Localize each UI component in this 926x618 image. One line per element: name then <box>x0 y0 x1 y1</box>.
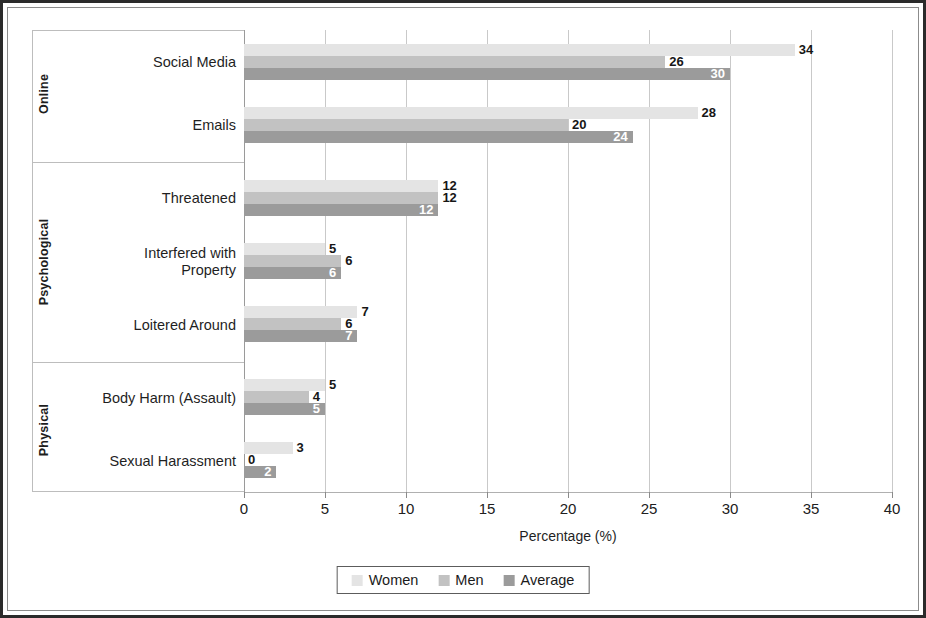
category-axis-pane: OnlineSocial MediaEmailsPsychologicalThr… <box>32 30 244 492</box>
x-tick-40 <box>892 492 893 498</box>
legend-swatch-men-icon <box>438 575 449 586</box>
data-label-average: 7 <box>345 330 352 342</box>
bar-men[interactable] <box>244 318 341 330</box>
x-tick-label-0: 0 <box>240 500 248 517</box>
data-label-women: 5 <box>329 379 336 391</box>
bar-men[interactable] <box>244 391 309 403</box>
data-label-women: 3 <box>297 442 304 454</box>
data-label-women: 28 <box>702 107 716 119</box>
chart-legend[interactable]: Women Men Average <box>337 566 590 594</box>
bar-men[interactable] <box>244 56 665 68</box>
chart-figure: OnlineSocial MediaEmailsPsychologicalThr… <box>0 0 926 618</box>
legend-label-women: Women <box>369 572 419 588</box>
group-separator <box>33 362 244 363</box>
bar-men[interactable] <box>244 192 438 204</box>
data-label-men: 6 <box>345 255 352 267</box>
legend-item-women[interactable]: Women <box>352 572 419 588</box>
bar-women[interactable] <box>244 107 698 119</box>
x-tick-label-10: 10 <box>398 500 415 517</box>
x-tick-5 <box>325 492 326 498</box>
x-tick-label-5: 5 <box>321 500 329 517</box>
x-tick-label-20: 20 <box>560 500 577 517</box>
category-label: Threatened <box>162 190 236 207</box>
data-label-average: 2 <box>264 466 271 478</box>
x-tick-label-30: 30 <box>722 500 739 517</box>
data-label-average: 6 <box>329 267 336 279</box>
legend-swatch-women-icon <box>352 575 363 586</box>
data-label-men: 0 <box>248 454 255 466</box>
legend-swatch-average-icon <box>504 575 515 586</box>
category-label: Emails <box>192 117 236 134</box>
x-tick-15 <box>487 492 488 498</box>
bar-average[interactable] <box>244 131 633 143</box>
bar-women[interactable] <box>244 243 325 255</box>
x-tick-label-40: 40 <box>884 500 901 517</box>
category-label: Interfered with Property <box>144 245 236 279</box>
data-label-average: 24 <box>613 131 627 143</box>
group-label-physical: Physical <box>33 367 55 493</box>
x-tick-0 <box>244 492 245 498</box>
x-tick-label-25: 25 <box>641 500 658 517</box>
bar-average[interactable] <box>244 267 341 279</box>
x-tick-20 <box>568 492 569 498</box>
bar-average[interactable] <box>244 330 357 342</box>
bar-women[interactable] <box>244 44 795 56</box>
x-tick-25 <box>649 492 650 498</box>
category-label: Sexual Harassment <box>109 453 236 470</box>
data-label-men: 20 <box>572 119 586 131</box>
gridline-40 <box>892 30 893 492</box>
data-label-women: 5 <box>329 243 336 255</box>
legend-label-men: Men <box>455 572 483 588</box>
data-label-average: 5 <box>313 403 320 415</box>
bar-men[interactable] <box>244 119 568 131</box>
x-tick-30 <box>730 492 731 498</box>
data-label-men: 12 <box>442 192 456 204</box>
legend-item-men[interactable]: Men <box>438 572 483 588</box>
bar-average[interactable] <box>244 466 276 478</box>
data-label-women: 34 <box>799 44 813 56</box>
legend-item-average[interactable]: Average <box>504 572 575 588</box>
data-label-men: 26 <box>669 56 683 68</box>
x-tick-label-15: 15 <box>479 500 496 517</box>
category-label: Loitered Around <box>134 317 236 334</box>
bar-average[interactable] <box>244 68 730 80</box>
chart-figure-inner-border: OnlineSocial MediaEmailsPsychologicalThr… <box>7 7 919 611</box>
x-axis-title: Percentage (%) <box>244 528 892 544</box>
bar-women[interactable] <box>244 180 438 192</box>
category-label: Social Media <box>153 54 236 71</box>
group-label-psychological: Psychological <box>33 167 55 356</box>
data-label-average: 12 <box>419 204 433 216</box>
data-label-average: 30 <box>711 68 725 80</box>
bar-men[interactable] <box>244 255 341 267</box>
bar-average[interactable] <box>244 204 438 216</box>
bar-women[interactable] <box>244 306 357 318</box>
x-tick-35 <box>811 492 812 498</box>
category-label: Body Harm (Assault) <box>102 390 236 407</box>
legend-label-average: Average <box>521 572 575 588</box>
data-label-women: 7 <box>361 306 368 318</box>
x-tick-10 <box>406 492 407 498</box>
group-separator <box>33 162 244 163</box>
group-label-online: Online <box>33 31 55 157</box>
plot-area: 342630282024121212566767545302 <box>244 30 892 492</box>
x-tick-label-35: 35 <box>803 500 820 517</box>
